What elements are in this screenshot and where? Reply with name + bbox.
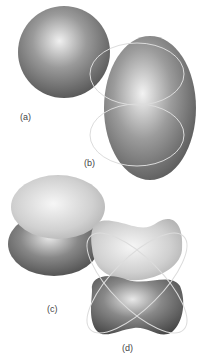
label-d: (d) [122,343,133,353]
label-a: (a) [20,112,31,122]
orbital-diagram [0,0,200,358]
label-b: (b) [84,158,95,168]
lobes-d [73,219,200,348]
sphere-a [18,6,110,98]
label-c: (c) [47,304,58,314]
